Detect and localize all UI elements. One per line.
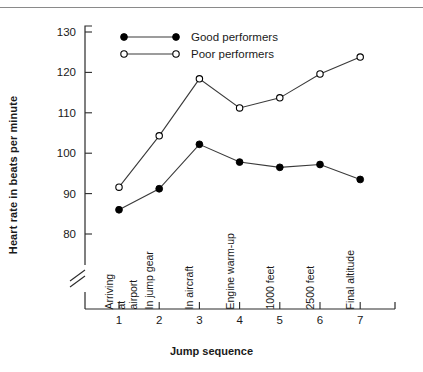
data-point-marker (156, 185, 163, 192)
y-tick-label: 110 (42, 107, 76, 119)
x-stage-label: In jump gear (144, 251, 156, 309)
data-point-marker (357, 176, 364, 183)
data-point-marker (236, 105, 242, 111)
y-axis-title-wrapper: Heart rate in beats per minute (2, 60, 24, 290)
legend-sample-marker (121, 51, 127, 57)
data-point-marker (317, 71, 323, 77)
x-stage-label: at (116, 301, 128, 310)
legend-label-poor-performers: Poor performers (191, 48, 274, 61)
x-stage-label: Final altitude (345, 250, 357, 310)
x-stage-label: airport (128, 280, 140, 310)
data-point-marker (357, 54, 363, 60)
y-axis-line (85, 26, 92, 309)
x-axis-title: Jump sequence (0, 345, 423, 357)
x-tick-label: 6 (308, 314, 332, 326)
x-stage-label: 1000 feet (264, 266, 276, 310)
x-stage-label: Engine warm-up (224, 233, 236, 309)
y-axis-title: Heart rate in beats per minute (7, 96, 19, 254)
x-tick-label: 5 (268, 314, 292, 326)
legend-sample-marker (121, 34, 128, 41)
y-tick-label: 80 (42, 228, 76, 240)
series-line-poor-performers (119, 57, 360, 187)
series-line-good-performers (119, 144, 360, 209)
x-tick-label: 3 (187, 314, 211, 326)
data-point-marker (277, 95, 283, 101)
x-tick-label: 7 (348, 314, 372, 326)
x-tick-label: 1 (107, 314, 131, 326)
data-point-marker (156, 133, 162, 139)
x-axis-ticks (119, 302, 360, 309)
y-tick-label: 120 (42, 66, 76, 78)
y-tick-label: 90 (42, 188, 76, 200)
data-point-marker (276, 164, 283, 171)
data-point-marker (196, 76, 202, 82)
y-axis-break-marker (70, 270, 85, 287)
legend-markers-group (121, 34, 180, 58)
chart-figure: 8090100110120130 1234567 Arrivingatairpo… (0, 0, 423, 372)
y-tick-label: 100 (42, 147, 76, 159)
y-tick-label: 130 (42, 26, 76, 38)
legend-sample-marker (173, 51, 179, 57)
x-tick-label: 2 (147, 314, 171, 326)
data-point-marker (196, 141, 203, 148)
data-point-marker (116, 206, 123, 213)
data-point-marker (236, 159, 243, 166)
x-tick-label: 4 (228, 314, 252, 326)
x-stage-label: Arriving (104, 274, 116, 310)
series-markers-group (116, 54, 364, 213)
data-point-marker (116, 184, 122, 190)
legend-sample-marker (173, 34, 180, 41)
x-stage-label: 2500 feet (305, 266, 317, 310)
legend-label-good-performers: Good performers (191, 31, 278, 44)
data-point-marker (317, 161, 324, 168)
series-lines-group (119, 57, 360, 210)
y-axis-ticks (85, 32, 92, 234)
x-stage-label: In aircraft (184, 266, 196, 310)
